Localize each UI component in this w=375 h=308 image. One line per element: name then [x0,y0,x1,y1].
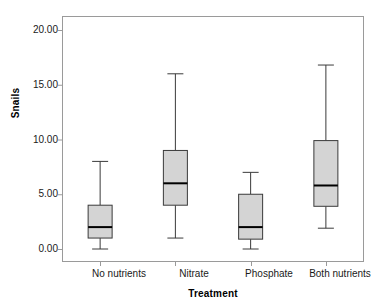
x-axis-title: Treatment [62,288,364,299]
x-tick-label: Phosphate [245,268,293,279]
box-series [88,65,338,249]
box-plot-item [314,65,338,228]
box-plot-item [239,172,263,249]
box-plot-chart: Snails 20.00 15.00 10.00 5.00 0.00 No nu… [0,0,375,308]
x-tick-label: Nitrate [179,268,208,279]
box-plot-item [163,74,187,238]
y-axis-tick-marks [58,31,63,250]
x-tick-label: Both nutrients [309,268,371,279]
x-axis-tick-marks [101,262,327,267]
box-plot-item [88,161,112,249]
x-tick-label: No nutrients [92,268,146,279]
plot-area [0,0,375,308]
